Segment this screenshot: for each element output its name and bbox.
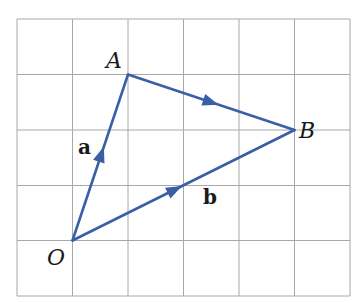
vector-label-a: a [78, 135, 91, 159]
vector-diagram: A B O a b [0, 0, 361, 303]
grid [17, 19, 350, 296]
point-label-b: B [298, 118, 315, 143]
arrowhead-icon [201, 94, 220, 110]
vector-label-b: b [203, 185, 217, 209]
labels: A B O a b [47, 48, 315, 270]
point-label-a: A [104, 48, 122, 73]
arrowhead-icon [165, 181, 185, 199]
arrowhead-icon [93, 145, 109, 164]
point-label-o: O [47, 245, 65, 270]
